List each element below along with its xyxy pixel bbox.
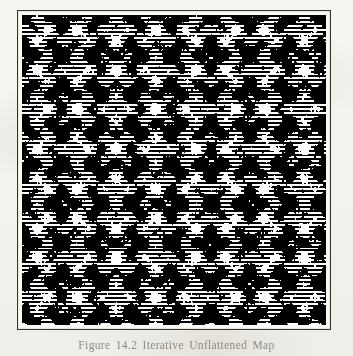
dithered-pattern-plot — [22, 15, 326, 325]
figure-caption: Figure 14.2 Iterative Unflattened Map — [0, 339, 353, 356]
figure-frame — [17, 10, 331, 330]
pattern-canvas — [22, 15, 326, 325]
